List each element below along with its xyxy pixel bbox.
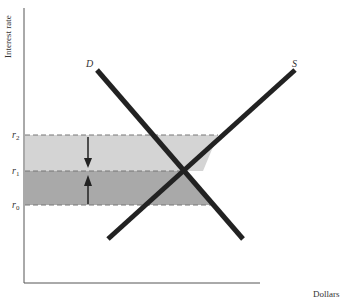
r1-label: r1 <box>12 165 20 178</box>
diagram-canvas: D S r2 r1 r0 Interest rate Dollars <box>0 0 347 301</box>
lower-band <box>25 171 213 205</box>
r2-label: r2 <box>12 129 20 142</box>
supply-label: S <box>292 58 297 69</box>
demand-label: D <box>85 58 94 69</box>
y-axis-label: Interest rate <box>3 15 13 58</box>
r0-label: r0 <box>12 199 20 212</box>
x-axis-label: Dollars <box>313 289 340 299</box>
